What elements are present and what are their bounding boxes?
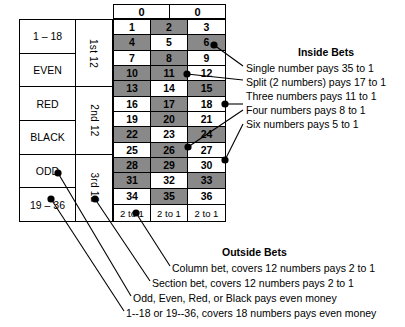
zero-cell-right[interactable]: 0 <box>169 5 225 18</box>
number-cell-34[interactable]: 34 <box>114 189 151 204</box>
number-cell-26[interactable]: 26 <box>151 143 188 158</box>
number-cell-10[interactable]: 10 <box>114 66 151 81</box>
zero-row: 0 0 <box>113 4 226 19</box>
number-cell-29[interactable]: 29 <box>151 158 188 173</box>
column-bet-row: 2 to 1 2 to 1 2 to 1 <box>113 205 226 222</box>
inside-bet-three-numbers: Three numbers pays 11 to 1 <box>246 90 377 102</box>
outside-bet-even-money: Odd, Even, Red, or Black pays even money <box>133 292 337 304</box>
number-cell-8[interactable]: 8 <box>151 51 188 66</box>
outside-bet-low[interactable]: 1 – 18 <box>20 20 75 53</box>
outside-bets-column: 1 – 18 EVEN RED BLACK ODD 19 – 36 <box>19 19 76 222</box>
number-cell-18[interactable]: 18 <box>188 97 225 112</box>
dozen-bet-1st-12[interactable]: 1st 12 <box>76 20 112 86</box>
number-cell-35[interactable]: 35 <box>151 189 188 204</box>
column-bet-3[interactable]: 2 to 1 <box>188 205 225 221</box>
number-cell-15[interactable]: 15 <box>188 81 225 96</box>
number-cell-4[interactable]: 4 <box>114 35 151 50</box>
outside-bet-high[interactable]: 19 – 36 <box>20 187 75 221</box>
number-cell-2[interactable]: 2 <box>151 20 188 35</box>
number-cell-25[interactable]: 25 <box>114 143 151 158</box>
number-cell-12[interactable]: 12 <box>188 66 225 81</box>
dozen-bet-2nd-12[interactable]: 2nd 12 <box>76 86 112 153</box>
number-cell-17[interactable]: 17 <box>151 97 188 112</box>
inside-bet-single-number: Single number pays 35 to 1 <box>246 62 374 74</box>
column-bet-2[interactable]: 2 to 1 <box>151 205 188 221</box>
number-cell-19[interactable]: 19 <box>114 112 151 127</box>
number-cell-36[interactable]: 36 <box>188 189 225 204</box>
inside-bet-four-numbers: Four numbers pays 8 to 1 <box>246 104 366 116</box>
outside-bet-section: Section bet, covers 12 numbers pays 2 to… <box>152 277 354 289</box>
number-cell-11[interactable]: 11 <box>151 66 188 81</box>
number-cell-13[interactable]: 13 <box>114 81 151 96</box>
inside-bet-split: Split (2 numbers) pays 17 to 1 <box>246 76 386 88</box>
number-cell-3[interactable]: 3 <box>188 20 225 35</box>
dozen-label-1st-12: 1st 12 <box>88 39 99 68</box>
number-cell-20[interactable]: 20 <box>151 112 188 127</box>
number-cell-30[interactable]: 30 <box>188 158 225 173</box>
roulette-betting-layout-diagram: 0 0 1 – 18 EVEN RED BLACK ODD 19 – 36 1s… <box>0 0 405 327</box>
number-cell-16[interactable]: 16 <box>114 97 151 112</box>
numbers-grid: 1234567891011121314151617181920212223242… <box>113 19 226 205</box>
outside-bet-column: Column bet, covers 12 numbers pays 2 to … <box>172 262 375 274</box>
number-cell-6[interactable]: 6 <box>188 35 225 50</box>
dozen-bet-3rd-12[interactable]: 3rd 12 <box>76 154 112 221</box>
outside-bet-even[interactable]: EVEN <box>20 53 75 87</box>
number-cell-33[interactable]: 33 <box>188 173 225 188</box>
number-cell-32[interactable]: 32 <box>151 173 188 188</box>
dozens-column: 1st 12 2nd 12 3rd 12 <box>76 19 113 222</box>
number-cell-27[interactable]: 27 <box>188 143 225 158</box>
number-cell-5[interactable]: 5 <box>151 35 188 50</box>
number-cell-22[interactable]: 22 <box>114 127 151 142</box>
outside-bet-odd[interactable]: ODD <box>20 154 75 188</box>
outside-bet-black[interactable]: BLACK <box>20 120 75 154</box>
inside-bet-six-numbers: Six numbers pays 5 to 1 <box>246 118 359 130</box>
dozen-label-3rd-12: 3rd 12 <box>89 173 100 203</box>
column-bet-1[interactable]: 2 to 1 <box>114 205 151 221</box>
number-cell-9[interactable]: 9 <box>188 51 225 66</box>
number-cell-28[interactable]: 28 <box>114 158 151 173</box>
number-cell-14[interactable]: 14 <box>151 81 188 96</box>
outside-bet-high-low: 1--18 or 19--36, covers 18 numbers pays … <box>126 307 376 319</box>
number-cell-24[interactable]: 24 <box>188 127 225 142</box>
outside-bet-red[interactable]: RED <box>20 86 75 120</box>
number-cell-31[interactable]: 31 <box>114 173 151 188</box>
number-cell-21[interactable]: 21 <box>188 112 225 127</box>
number-cell-7[interactable]: 7 <box>114 51 151 66</box>
inside-bets-heading: Inside Bets <box>298 46 354 58</box>
dozen-label-2nd-12: 2nd 12 <box>88 104 99 136</box>
number-cell-23[interactable]: 23 <box>151 127 188 142</box>
number-cell-1[interactable]: 1 <box>114 20 151 35</box>
outside-bets-heading: Outside Bets <box>222 246 287 258</box>
leader-line-six-numbers <box>225 124 243 160</box>
zero-cell-left[interactable]: 0 <box>114 5 169 18</box>
